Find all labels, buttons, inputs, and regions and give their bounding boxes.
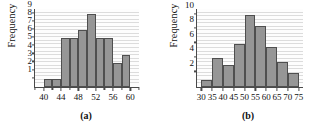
x-tick-mark xyxy=(43,87,44,91)
x-tick-mark xyxy=(298,87,299,91)
y-tick-mark xyxy=(32,77,35,78)
x-tick-mark xyxy=(201,87,202,91)
y-tick-mark xyxy=(32,20,35,21)
x-tick-mark xyxy=(255,87,256,91)
y-tick-mark xyxy=(32,12,35,13)
x-tick-mark xyxy=(212,87,213,91)
y-tick-label: 6 xyxy=(190,29,198,39)
x-tick-mark xyxy=(244,87,245,91)
x-tick-mark-minor xyxy=(52,87,53,90)
panel-caption-b: (b) xyxy=(196,110,300,121)
histogram-panel-b: Frequency 246810 30354045505560657075 (b… xyxy=(160,0,321,130)
x-tick-label: 44 xyxy=(57,92,66,102)
y-tick-mark xyxy=(194,71,197,72)
x-tick-label: 40 xyxy=(39,92,48,102)
x-tick-label: 30 xyxy=(197,92,206,102)
x-tick-mark xyxy=(78,87,79,91)
x-tick-mark-minor xyxy=(104,87,105,90)
x-tick-label: 75 xyxy=(294,92,303,102)
y-tick-mark xyxy=(194,56,197,57)
histogram-figure-pair: Frequency 123456789 404448525660 (a) Fre… xyxy=(0,0,321,130)
x-tick-mark xyxy=(112,87,113,91)
y-tick-label: 9 xyxy=(28,0,36,9)
x-tick-mark xyxy=(266,87,267,91)
x-tick-label: 40 xyxy=(218,92,227,102)
y-tick-label: 10 xyxy=(185,0,197,10)
x-tick-mark-minor xyxy=(138,87,139,90)
x-tick-mark-minor xyxy=(69,87,70,90)
y-axis-ticks-a: 123456789 xyxy=(35,9,139,87)
y-tick-mark xyxy=(194,42,197,43)
x-tick-label: 55 xyxy=(251,92,260,102)
plot-area-b: 246810 30354045505560657075 xyxy=(196,9,303,88)
plot-area-a: 123456789 404448525660 xyxy=(34,9,139,88)
x-tick-mark xyxy=(222,87,223,91)
x-tick-label: 45 xyxy=(229,92,238,102)
y-tick-mark xyxy=(32,61,35,62)
panel-caption-a: (a) xyxy=(34,110,138,121)
y-axis-ticks-b: 246810 xyxy=(197,9,303,87)
x-tick-label: 48 xyxy=(74,92,83,102)
x-tick-mark-minor xyxy=(121,87,122,90)
y-tick-mark xyxy=(32,45,35,46)
y-axis-label-b: Frequency xyxy=(168,0,179,57)
y-tick-label: 2 xyxy=(190,58,198,68)
x-tick-mark-minor xyxy=(86,87,87,90)
y-tick-label: 4 xyxy=(190,43,198,53)
x-tick-label: 70 xyxy=(283,92,292,102)
x-tick-mark-minor xyxy=(34,87,35,90)
x-tick-label: 56 xyxy=(109,92,118,102)
x-tick-mark xyxy=(60,87,61,91)
y-tick-mark xyxy=(32,36,35,37)
y-tick-mark xyxy=(194,27,197,28)
y-tick-mark xyxy=(32,53,35,54)
x-tick-mark xyxy=(276,87,277,91)
y-tick-mark xyxy=(32,28,35,29)
x-tick-label: 65 xyxy=(273,92,282,102)
y-tick-mark xyxy=(194,13,197,14)
x-tick-mark xyxy=(287,87,288,91)
x-tick-label: 60 xyxy=(262,92,271,102)
x-tick-mark xyxy=(233,87,234,91)
x-tick-label: 52 xyxy=(91,92,100,102)
x-tick-label: 35 xyxy=(208,92,217,102)
histogram-panel-a: Frequency 123456789 404448525660 (a) xyxy=(0,0,160,130)
x-tick-mark xyxy=(95,87,96,91)
x-tick-mark xyxy=(130,87,131,91)
y-axis-label-a: Frequency xyxy=(6,0,17,57)
x-tick-label: 60 xyxy=(126,92,135,102)
y-tick-mark xyxy=(32,69,35,70)
y-tick-label: 8 xyxy=(190,14,198,24)
x-tick-label: 50 xyxy=(240,92,249,102)
